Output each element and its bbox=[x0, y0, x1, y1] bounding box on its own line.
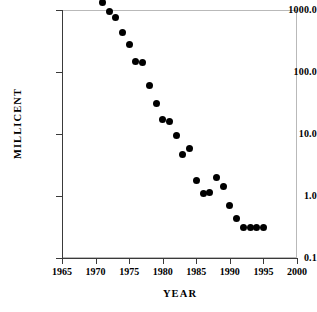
data-point bbox=[126, 41, 133, 48]
data-point bbox=[240, 224, 247, 231]
y-tick-mark bbox=[56, 72, 62, 73]
x-tick-mark bbox=[129, 258, 130, 264]
x-tick-mark bbox=[163, 258, 164, 264]
data-point bbox=[193, 177, 200, 184]
scatter-chart: 0.11.010.0100.01000.0 196519701975198019… bbox=[0, 0, 317, 312]
y-tick-mark bbox=[56, 196, 62, 197]
x-tick-mark bbox=[230, 258, 231, 264]
data-point bbox=[173, 132, 180, 139]
x-axis-title: YEAR bbox=[62, 288, 298, 299]
y-tick-label: 1000.0 bbox=[265, 5, 317, 15]
y-tick-label: 1.0 bbox=[265, 191, 317, 201]
data-point bbox=[119, 29, 126, 36]
y-tick-mark bbox=[56, 134, 62, 135]
data-point bbox=[153, 100, 160, 107]
data-point bbox=[213, 174, 220, 181]
data-point bbox=[146, 82, 153, 89]
data-point bbox=[260, 224, 267, 231]
y-tick-label: 100.0 bbox=[265, 67, 317, 77]
y-axis-line bbox=[62, 10, 63, 259]
y-tick-mark bbox=[56, 10, 62, 11]
y-tick-label: 0.1 bbox=[265, 253, 317, 263]
x-tick-mark bbox=[196, 258, 197, 264]
x-tick-mark bbox=[263, 258, 264, 264]
y-axis-title: MILLICENT bbox=[12, 77, 23, 171]
x-tick-mark bbox=[297, 258, 298, 264]
y-tick-label: 10.0 bbox=[265, 129, 317, 139]
data-point bbox=[106, 8, 113, 15]
data-point bbox=[166, 118, 173, 125]
x-tick-mark bbox=[96, 258, 97, 264]
x-tick-mark bbox=[62, 258, 63, 264]
data-point bbox=[99, 0, 106, 6]
x-tick-label: 2000 bbox=[277, 266, 317, 277]
